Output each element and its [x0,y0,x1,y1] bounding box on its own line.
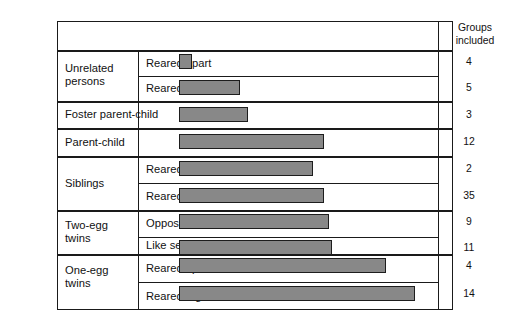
category-label-one-egg-twins: One-egg twins [58,254,138,300]
bar-row-10 [179,286,416,301]
bar-row-4 [179,134,324,149]
groups-value-row-3: 3 [441,109,497,120]
groups-value-row-7: 9 [441,216,497,227]
bar-row-8 [179,240,332,255]
bar-row-6 [179,188,324,203]
groups-value-row-1: 4 [441,56,497,67]
bar-row-1 [179,54,192,69]
groups-value-row-4: 12 [441,136,497,147]
bar-row-7 [179,214,330,229]
category-label-siblings: Siblings [58,156,138,210]
bar-row-5 [179,161,314,176]
groups-value-row-10: 14 [441,288,497,299]
groups-value-row-2: 5 [441,82,497,93]
category-label-unrelated-persons: Unrelated persons [58,51,138,101]
chart-table-root: Category 0.000.100.200.300.400.500.600.7… [0,0,510,324]
bar-row-9 [179,258,386,273]
groups-value-row-8: 11 [441,242,497,253]
groups-value-row-5: 2 [441,163,497,174]
bar-row-2 [179,80,241,95]
rule-vertical-groups [438,21,439,310]
category-label-two-egg-twins: Two-egg twins [58,210,138,254]
groups-value-row-9: 4 [441,260,497,271]
groups-value-row-6: 35 [441,190,497,201]
bar-row-3 [179,107,249,122]
